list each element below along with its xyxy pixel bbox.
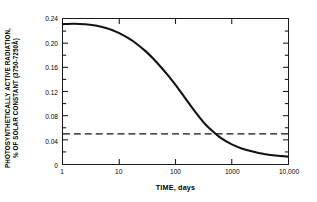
plot-svg <box>63 19 288 164</box>
x-tick-label: 100 <box>170 168 181 175</box>
y-tick-label: 0.24 <box>45 15 58 22</box>
x-tick-label: 1000 <box>225 168 240 175</box>
series-line-main <box>63 24 288 157</box>
y-tick-label: 0.20 <box>45 39 58 46</box>
y-tick-label: 0.12 <box>45 88 58 95</box>
chart-figure: PHOTOSYNTHETICALLY ACTIVE RADIATION, % O… <box>0 0 317 202</box>
axis-ticks <box>63 19 288 164</box>
x-axis-tick-labels: 110100100010,000 <box>0 168 317 180</box>
y-tick-label: 0.04 <box>45 137 58 144</box>
x-tick-label: 10 <box>115 168 122 175</box>
y-axis-title-line2: % OF SOLAR CONSTANT (3750-7250Å) <box>12 38 20 164</box>
data-series <box>63 24 288 157</box>
y-tick-label: 0.08 <box>45 113 58 120</box>
y-axis-title-line1: PHOTOSYNTHETICALLY ACTIVE RADIATION, <box>4 28 12 174</box>
x-tick-label: 10,000 <box>279 168 299 175</box>
y-tick-label: 0.16 <box>45 64 58 71</box>
x-axis-title: TIME, days <box>62 183 289 192</box>
x-tick-label: 1 <box>60 168 64 175</box>
plot-area <box>62 18 289 165</box>
